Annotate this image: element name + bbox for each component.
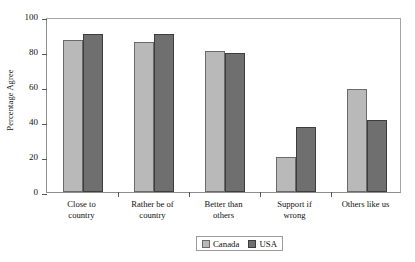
bar-chart: Percentage Agree 020406080100 Close toco…: [0, 0, 415, 262]
y-axis-title: Percentage Agree: [0, 0, 20, 200]
legend-swatch-icon: [248, 240, 256, 248]
y-axis-tick-label: 60: [4, 83, 38, 92]
y-axis-tick-label: 80: [4, 48, 38, 57]
x-axis-tick-label-line: Rather be of: [117, 199, 188, 210]
bar-canada-0: [63, 40, 83, 192]
x-axis-tick: [189, 192, 190, 197]
x-axis-tick-label-line: Others like us: [330, 199, 401, 210]
x-axis-tick-label: Rather be ofcountry: [117, 199, 188, 221]
bar-usa-2: [225, 53, 245, 192]
y-axis-tick-label: 40: [4, 118, 38, 127]
plot-area: [47, 19, 400, 192]
y-axis-tick-label: 0: [4, 188, 38, 197]
y-axis-tick-label: 20: [4, 153, 38, 162]
x-axis-tick-label-line: Close to: [46, 199, 117, 210]
x-axis-tick: [118, 192, 119, 197]
bar-usa-4: [367, 120, 387, 192]
x-axis-tick-label-line: Better than: [188, 199, 259, 210]
x-axis-tick-label: Better thanothers: [188, 199, 259, 221]
bar-usa-0: [83, 34, 103, 192]
chart-legend: CanadaUSA: [196, 236, 283, 251]
x-axis-tick: [331, 192, 332, 197]
plot-frame: [46, 18, 401, 193]
x-axis-tick-label: Others like us: [330, 199, 401, 210]
legend-entry-canada: Canada: [202, 239, 239, 249]
bar-canada-4: [347, 89, 367, 192]
bar-usa-3: [296, 127, 316, 192]
legend-label: Canada: [213, 239, 239, 249]
x-axis-tick-label-line: Support if: [259, 199, 330, 210]
x-axis-tick-label-line: others: [188, 210, 259, 221]
y-axis-tick: [42, 194, 47, 195]
legend-entry-usa: USA: [248, 239, 277, 249]
y-axis-tick-label: 100: [4, 13, 38, 22]
x-axis-tick-label-line: wrong: [259, 210, 330, 221]
y-axis-tick: [42, 124, 47, 125]
y-axis-tick: [42, 19, 47, 20]
bar-canada-1: [134, 42, 154, 193]
bar-usa-1: [154, 34, 174, 192]
legend-label: USA: [259, 239, 277, 249]
legend-swatch-icon: [202, 240, 210, 248]
y-axis-tick: [42, 159, 47, 160]
y-axis-tick: [42, 54, 47, 55]
bar-canada-2: [205, 51, 225, 192]
x-axis-tick-label-line: country: [117, 210, 188, 221]
x-axis-tick: [260, 192, 261, 197]
x-axis-tick-label-line: country: [46, 210, 117, 221]
y-axis-tick: [42, 89, 47, 90]
bar-canada-3: [276, 157, 296, 192]
x-axis-tick-label: Close tocountry: [46, 199, 117, 221]
x-axis-tick-label: Support ifwrong: [259, 199, 330, 221]
